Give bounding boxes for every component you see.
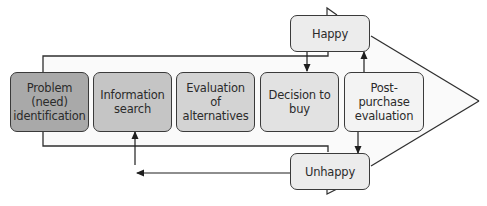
- stage-label-line: identification: [13, 109, 85, 123]
- outcome-unhappy: Unhappy: [290, 153, 370, 190]
- stage-label-line: alternatives: [180, 109, 251, 123]
- stage-label-line: search: [100, 102, 164, 116]
- stage-label-line: Evaluation of: [180, 81, 251, 109]
- stage-label-line: Information: [100, 88, 164, 102]
- stage-label-line: buy: [269, 102, 331, 116]
- outcome-unhappy-label: Unhappy: [305, 165, 355, 179]
- outcome-happy-label: Happy: [312, 27, 348, 41]
- stage-information-search: Information search: [93, 72, 172, 132]
- stage-label-line: (need): [13, 95, 85, 109]
- stage-label-line: evaluation: [348, 109, 420, 123]
- stage-label-line: Problem: [13, 81, 85, 95]
- stage-post-purchase-evaluation: Post-purchase evaluation: [344, 72, 424, 132]
- stage-evaluation-of-alternatives: Evaluation of alternatives: [176, 72, 255, 132]
- stage-label-line: Post-purchase: [348, 81, 420, 109]
- outcome-happy: Happy: [290, 15, 370, 52]
- stage-decision-to-buy: Decision to buy: [260, 72, 339, 132]
- stage-label-line: Decision to: [269, 88, 331, 102]
- stage-problem-identification: Problem (need) identification: [10, 72, 89, 132]
